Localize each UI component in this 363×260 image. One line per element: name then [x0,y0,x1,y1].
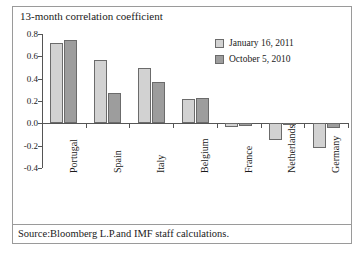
bar [196,98,209,124]
y-tick-mark [38,79,42,80]
zero-baseline [42,123,348,124]
legend-item: January 16, 2011 [215,38,294,48]
bar [138,68,151,124]
chart-legend: January 16, 2011October 5, 2010 [215,38,294,70]
legend-label: October 5, 2010 [229,54,290,64]
bar [225,123,238,126]
y-tick-label: 0.6 [27,52,38,61]
x-category-label: Netherlands [286,125,297,173]
y-tick-mark [38,168,42,169]
x-tick-mark [261,123,262,128]
bar [94,60,107,124]
bar [327,123,340,127]
y-tick-mark [38,101,42,102]
x-tick-mark [129,123,130,128]
legend-swatch-icon [215,39,224,48]
x-category-label: Italy [155,155,166,173]
source-note: Source:Bloomberg L.P.and IMF staff calcu… [18,228,229,239]
bar [50,43,63,123]
y-axis-line [42,34,43,168]
x-tick-mark [86,123,87,128]
x-tick-mark [348,123,349,128]
source-divider [12,224,352,225]
bar [239,123,252,125]
y-tick-mark [38,34,42,35]
plot-area: 0.80.60.40.20.0-0.2-0.4 [42,34,348,168]
x-tick-mark [304,123,305,128]
y-tick-label: 0.0 [27,119,38,128]
x-tick-mark [173,123,174,128]
x-tick-mark [42,123,43,128]
x-category-label: Spain [112,150,123,173]
bar [313,123,326,148]
y-tick-mark [38,146,42,147]
x-category-label: France [243,146,254,173]
x-tick-mark [217,123,218,128]
y-tick-label: 0.8 [27,30,38,39]
y-tick-label: -0.4 [24,164,38,173]
x-category-label: Germany [330,136,341,173]
bar [64,40,77,124]
y-tick-label: -0.2 [24,141,38,150]
bar [152,82,165,123]
y-tick-label: 0.4 [27,74,38,83]
x-category-label: Portugal [68,139,79,173]
y-tick-label: 0.2 [27,97,38,106]
chart-title: 13-month correlation coefficient [20,10,163,22]
chart-figure: 13-month correlation coefficient 0.80.60… [0,0,363,260]
legend-item: October 5, 2010 [215,54,294,64]
bar [182,99,195,124]
legend-swatch-icon [215,55,224,64]
legend-label: January 16, 2011 [229,38,294,48]
x-category-label: Belgium [199,139,210,173]
y-tick-mark [38,56,42,57]
bar [108,93,121,123]
bar [269,123,282,140]
